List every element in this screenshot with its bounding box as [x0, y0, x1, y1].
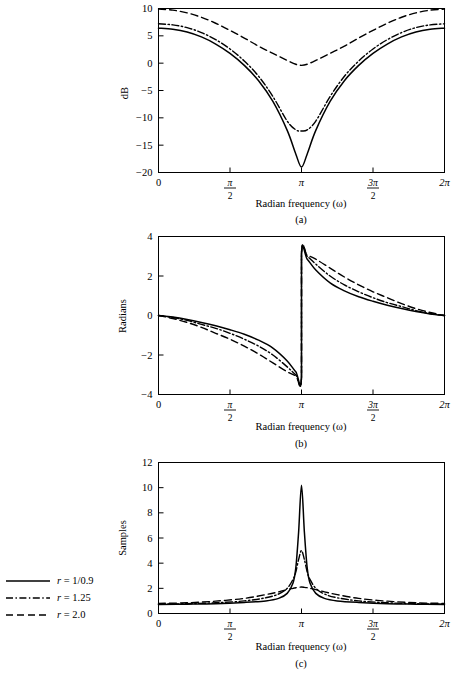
x-tick-label: 2π	[439, 618, 450, 629]
x-tick-label: 2π	[439, 399, 450, 410]
x-ticks-b	[230, 390, 373, 395]
y-tick-label: 2	[147, 271, 152, 282]
y-tick-label: 5	[147, 30, 152, 41]
x-axis-title-c: Radian frequency (ω)	[256, 641, 347, 653]
panel-b: −4−2024 0π2π3π22π Radians Radian frequen…	[0, 228, 462, 454]
chart-c-svg: 024681012 0π2π3π22π Samples Radian frequ…	[0, 454, 462, 684]
fraction-denominator: 2	[371, 413, 376, 423]
y-tick-label: 0	[147, 310, 152, 321]
x-tick-label: 0	[156, 399, 161, 410]
x-tick-label: π2	[224, 619, 236, 642]
y-tick-labels-c: 024681012	[142, 457, 153, 619]
legend: r = 1/0.9r = 1.25r = 2.0	[6, 572, 128, 623]
y-tick-label: 10	[142, 3, 153, 14]
legend-item: r = 1.25	[6, 589, 128, 606]
y-axis-title-c: Samples	[117, 520, 128, 556]
x-tick-label: π	[299, 177, 305, 188]
fraction-numerator: π	[228, 178, 233, 188]
x-tick-labels-a: 0π2π3π22π	[156, 177, 451, 201]
y-tick-label: −10	[136, 112, 152, 123]
x-tick-label: π	[299, 399, 305, 410]
fraction-numerator: 3π	[367, 178, 378, 188]
x-tick-label: 0	[156, 177, 161, 188]
x-ticks-a	[230, 168, 373, 173]
y-tick-label: 4	[147, 558, 153, 569]
x-tick-label: π2	[224, 178, 236, 201]
series-line	[159, 551, 445, 605]
y-tick-label: 8	[147, 507, 152, 518]
fraction-denominator: 2	[371, 191, 376, 201]
y-tick-label: 2	[147, 583, 152, 594]
y-tick-label: −15	[136, 140, 152, 151]
fraction-denominator: 2	[371, 632, 376, 642]
y-tick-label: 12	[142, 457, 153, 468]
chart-b-svg: −4−2024 0π2π3π22π Radians Radian frequen…	[0, 228, 462, 454]
chart-c-curves	[159, 485, 445, 604]
chart-a-svg: −20−15−10−50510 0π2π3π22π dB Radian freq…	[0, 0, 462, 228]
caption-b: (b)	[295, 438, 308, 450]
y-tick-labels-b: −4−2024	[141, 231, 153, 400]
series-line	[159, 24, 445, 131]
y-axis-title-b: Radians	[117, 299, 128, 333]
legend-label: r = 1.25	[57, 592, 91, 603]
y-ticks-a	[159, 9, 164, 173]
y-tick-label: 0	[147, 608, 152, 619]
fraction-numerator: 3π	[367, 400, 378, 410]
x-tick-label: π2	[224, 400, 236, 423]
panel-a: −20−15−10−50510 0π2π3π22π dB Radian freq…	[0, 0, 462, 228]
legend-item: r = 2.0	[6, 606, 128, 623]
fraction-denominator: 2	[228, 413, 233, 423]
caption-c: (c)	[295, 658, 307, 670]
x-ticks-c	[230, 609, 373, 614]
fraction-numerator: π	[228, 619, 233, 629]
chart-a-curves	[159, 9, 445, 167]
legend-line-swatch	[6, 592, 50, 604]
legend-line-swatch	[6, 575, 50, 587]
chart-b-curves	[159, 245, 445, 387]
x-tick-label: 2π	[439, 177, 450, 188]
legend-label: r = 2.0	[57, 609, 85, 620]
legend-item: r = 1/0.9	[6, 572, 128, 589]
fraction-denominator: 2	[228, 632, 233, 642]
panel-c: 024681012 0π2π3π22π Samples Radian frequ…	[0, 454, 462, 684]
legend-label: r = 1/0.9	[57, 575, 94, 586]
y-ticks-c	[159, 463, 164, 614]
caption-a: (a)	[295, 214, 307, 226]
y-tick-label: −2	[141, 350, 152, 361]
y-tick-label: −5	[141, 85, 152, 96]
x-tick-label: 3π2	[367, 178, 379, 201]
legend-line-swatch	[6, 609, 50, 621]
figure-container: −20−15−10−50510 0π2π3π22π dB Radian freq…	[0, 0, 462, 684]
x-tick-labels-c: 0π2π3π22π	[156, 618, 451, 642]
y-tick-label: 4	[147, 231, 153, 242]
y-tick-label: −4	[141, 389, 153, 400]
x-tick-labels-b: 0π2π3π22π	[156, 399, 451, 423]
fraction-numerator: 3π	[367, 619, 378, 629]
x-axis-title-b: Radian frequency (ω)	[256, 421, 347, 433]
fraction-denominator: 2	[228, 191, 233, 201]
series-line	[159, 28, 445, 167]
x-tick-label: π	[299, 618, 305, 629]
x-axis-title-a: Radian frequency (ω)	[256, 198, 347, 210]
x-tick-label: 3π2	[367, 400, 379, 423]
x-tick-label: 0	[156, 618, 161, 629]
y-tick-labels-a: −20−15−10−50510	[136, 3, 152, 178]
series-line	[159, 587, 445, 603]
x-tick-label: 3π2	[367, 619, 379, 642]
y-tick-label: 0	[147, 58, 152, 69]
y-axis-title-a: dB	[119, 87, 130, 99]
fraction-numerator: π	[228, 400, 233, 410]
y-tick-label: −20	[136, 167, 152, 178]
y-tick-label: 6	[147, 533, 152, 544]
y-tick-label: 10	[142, 482, 153, 493]
